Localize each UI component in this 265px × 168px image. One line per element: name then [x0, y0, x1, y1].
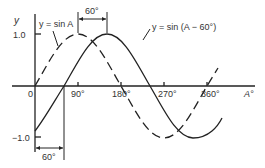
shift-label-bottom: 60°: [42, 152, 56, 162]
x-tick-label-360: 360°: [201, 89, 220, 99]
leader-sin-a-minus-60: [143, 29, 150, 40]
x-tick-label-180: 180°: [112, 89, 131, 99]
leader-sin-a: [53, 31, 58, 46]
legend-sin-a-minus-60: y = sin (A − 60°): [152, 22, 216, 32]
x-tick-label-90: 90°: [71, 89, 85, 99]
y-axis-label: y: [13, 15, 20, 26]
sine-phase-chart: y 1.0 −1.0 0 90° 180° 270° 360° A° y = s…: [0, 0, 265, 168]
legend-sin-a: y = sin A: [39, 19, 73, 29]
x-tick-label-270: 270°: [158, 89, 177, 99]
y-tick-label-neg: −1.0: [12, 133, 30, 143]
shift-label-top: 60°: [85, 6, 99, 16]
x-axis-label: A°: [243, 89, 254, 99]
y-tick-label-pos: 1.0: [13, 30, 26, 40]
x-tick-label-0: 0: [28, 89, 33, 99]
